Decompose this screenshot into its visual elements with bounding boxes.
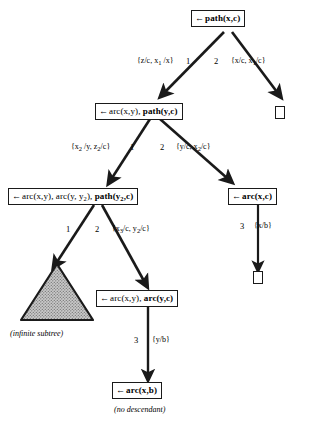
node-arc-arc-selected: arc(y,c) [144,293,173,303]
edge-arcarcpath-to-triangle [57,205,94,262]
node-arc-path[interactable]: ←arc(x,y), path(y,c) [95,103,183,120]
node-arc-xc-goal: arc(x,c) [242,191,272,201]
node-root-arrow: ← [195,13,205,23]
empty-clause-box-2[interactable] [253,271,263,284]
node-arc-path-body: arc(x,y), [109,106,143,116]
edge-label-2-substitution: {x/c, x1/c} [231,57,266,65]
edge-number-4: 2 [160,143,164,152]
node-arc-arc-path-selected: path(y [95,191,121,201]
infinite-subtree-triangle[interactable] [19,262,99,324]
node-root-goal: path(x,c) [205,13,240,23]
node-arc-arc-path-body: arc(x,y), arc(y, y [22,191,83,201]
edge-arcarcpath-to-arcarc [102,205,144,281]
node-arc-arc-path-arrow: ← [12,191,22,201]
node-arc-arc-path[interactable]: ←arc(x,y), arc(y, y2), path(y2,c) [8,188,138,205]
edge-label-1-substitution: {z/c, x1 /x} [137,57,173,65]
edge-label-3-substitution: {x2 /y, z2/c} [71,143,110,151]
empty-clause-box-1[interactable] [275,106,285,119]
node-arc-arc-body: arc(x,y), [110,293,144,303]
node-arc-xb-goal: arc(x,b) [126,385,157,395]
edge-number-7: 3 [240,222,244,231]
caption-infinite-subtree: (infinite subtree) [10,330,63,338]
node-arc-xc-arrow: ← [232,191,242,201]
node-arc-xb-arrow: ← [116,385,126,395]
edge-label-6-substitution: {x3/c, y2/c} [112,225,150,233]
node-arc-arc-arrow: ← [100,293,110,303]
edge-number-6: 2 [95,225,99,234]
edge-number-8: 3 [134,336,138,345]
edge-number-2: 2 [214,57,218,66]
node-arc-xc[interactable]: ←arc(x,c) [228,188,277,205]
edge-label-8-substitution: {y/b} [152,336,170,344]
edge-label-7-substitution: {x/b} [254,222,272,230]
edge-number-5: 1 [66,225,70,234]
node-arc-path-selected: path(y,c) [143,106,178,116]
node-arc-xb[interactable]: ←arc(x,b) [112,382,162,399]
edge-label-4-substitution: {y/c, x2/c} [176,143,211,151]
caption-no-descendant: (no descendant) [114,406,165,414]
edge-number-3: 1 [130,143,134,152]
node-root[interactable]: ←path(x,c) [191,10,245,27]
edge-number-1: 1 [186,57,190,66]
node-arc-path-arrow: ← [99,106,109,116]
sld-resolution-tree-figure: ←path(x,c) {z/c, x1 /x} 1 2 {x/c, x1/c} … [0,0,315,432]
node-arc-arc[interactable]: ←arc(x,y), arc(y,c) [96,290,178,307]
